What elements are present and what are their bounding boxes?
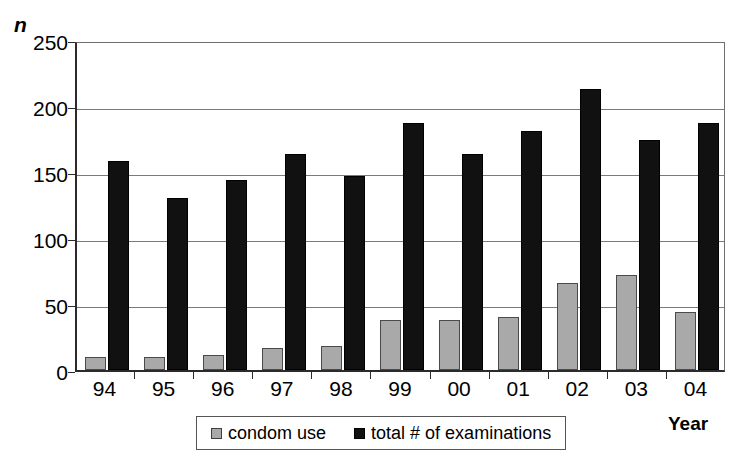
bar-condom-use — [439, 320, 460, 370]
legend-item: total # of examinations — [354, 424, 551, 442]
bar-total-examinations — [580, 89, 601, 370]
chart-legend: condom usetotal # of examinations — [196, 416, 566, 450]
bar-total-examinations — [108, 161, 129, 370]
x-tick-label: 00 — [447, 378, 470, 399]
bar-total-examinations — [462, 154, 483, 370]
y-tick-label: 0 — [0, 362, 68, 383]
bar-total-examinations — [639, 140, 660, 370]
bar-condom-use — [380, 320, 401, 370]
x-tick-label: 95 — [152, 378, 175, 399]
bar-group — [254, 43, 313, 370]
y-tick-label: 250 — [0, 32, 68, 53]
y-tickmark — [68, 372, 75, 373]
bar-condom-use — [675, 312, 696, 370]
y-tickmark — [68, 240, 75, 241]
plot-area — [75, 42, 725, 372]
bar-condom-use — [498, 317, 519, 370]
y-tickmark — [68, 174, 75, 175]
y-tick-label: 150 — [0, 164, 68, 185]
y-tickmark — [68, 108, 75, 109]
bar-total-examinations — [167, 198, 188, 370]
bar-condom-use — [144, 357, 165, 370]
bar-group — [609, 43, 668, 370]
bar-group — [668, 43, 727, 370]
y-tick-label: 50 — [0, 296, 68, 317]
bar-total-examinations — [521, 131, 542, 370]
x-tick-label: 03 — [625, 378, 648, 399]
bar-total-examinations — [285, 154, 306, 370]
x-tick-label: 01 — [506, 378, 529, 399]
bar-group — [136, 43, 195, 370]
bar-group — [372, 43, 431, 370]
x-tick-label: 97 — [270, 378, 293, 399]
x-axis-tick-labels: 9495969798990001020304 — [75, 378, 725, 408]
legend-item: condom use — [211, 424, 326, 442]
y-tickmark — [68, 42, 75, 43]
bar-total-examinations — [344, 176, 365, 370]
bar-group — [550, 43, 609, 370]
bar-condom-use — [616, 275, 637, 370]
y-tick-label: 100 — [0, 230, 68, 251]
bar-group — [313, 43, 372, 370]
x-tick-label: 99 — [388, 378, 411, 399]
bar-group — [195, 43, 254, 370]
black-square-icon — [354, 428, 365, 439]
x-tick-label: 04 — [684, 378, 707, 399]
y-tickmark — [68, 306, 75, 307]
bar-group — [77, 43, 136, 370]
legend-label: condom use — [228, 424, 326, 442]
bar-total-examinations — [698, 123, 719, 370]
y-tick-label: 200 — [0, 98, 68, 119]
bar-condom-use — [262, 348, 283, 370]
bar-group — [491, 43, 550, 370]
x-tick-label: 02 — [566, 378, 589, 399]
bar-total-examinations — [226, 180, 247, 370]
x-axis-title: Year — [668, 414, 708, 433]
x-tick-label: 98 — [329, 378, 352, 399]
bar-total-examinations — [403, 123, 424, 370]
bar-condom-use — [203, 355, 224, 370]
x-tick-label: 96 — [211, 378, 234, 399]
gray-square-icon — [211, 428, 222, 439]
bar-condom-use — [557, 283, 578, 370]
bar-chart: n 050100150200250 9495969798990001020304… — [0, 0, 744, 473]
y-axis-tick-labels: 050100150200250 — [0, 0, 68, 473]
legend-label: total # of examinations — [371, 424, 551, 442]
bar-group — [432, 43, 491, 370]
x-tick-label: 94 — [93, 378, 116, 399]
bar-condom-use — [85, 357, 106, 370]
bar-condom-use — [321, 346, 342, 370]
